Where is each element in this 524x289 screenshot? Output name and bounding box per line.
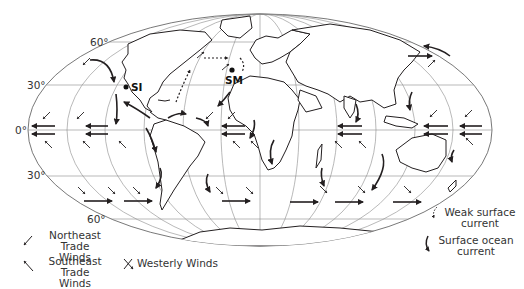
legend-northeast-trade-line1: Northeast Trade (49, 229, 101, 252)
africa (228, 76, 300, 170)
lat-label-30s: 30° (27, 169, 46, 181)
legend-southeast-trade-line2: Winds (59, 277, 91, 289)
lat-label-30n: 30° (27, 79, 46, 91)
antarctica (180, 226, 420, 246)
site-sm-marker (229, 67, 234, 72)
north-america (122, 30, 212, 112)
lat-label-0: 0° (15, 124, 27, 136)
legend-weak-current-line2: current (461, 217, 499, 229)
legend-southeast-trade-line1: Southeast Trade (49, 255, 102, 278)
site-si-marker (124, 85, 129, 90)
site-label-sm: SM (225, 74, 243, 86)
madagascar (316, 144, 322, 168)
greenland (220, 16, 252, 38)
legend-weak-current: Weak surface current (440, 207, 520, 229)
lat-label-60s: 60° (87, 213, 106, 225)
arabia (298, 90, 322, 112)
legend-surface-current-line2: current (457, 245, 495, 257)
legend-westerly: Westerly Winds (137, 258, 218, 269)
india (344, 96, 356, 118)
new-zealand (448, 180, 456, 192)
indonesia (384, 116, 418, 128)
australia (396, 134, 446, 172)
legend-surface-current: Surface ocean current (432, 235, 520, 257)
legend-southeast-trade: Southeast Trade Winds (35, 256, 115, 289)
site-label-si: SI (131, 81, 142, 93)
lat-label-60n: 60° (90, 36, 109, 48)
continents (122, 16, 456, 246)
